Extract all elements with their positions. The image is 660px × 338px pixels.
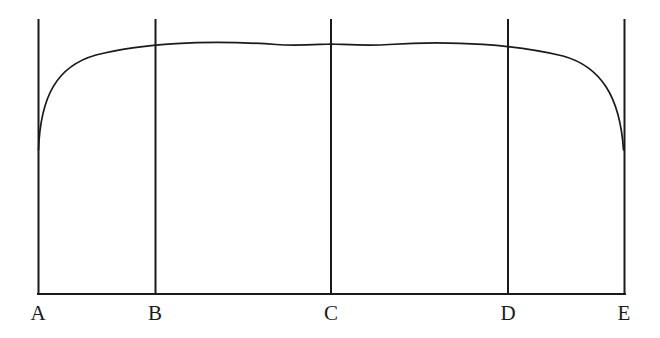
axis-tick-label-e: E <box>604 303 644 324</box>
axis-tick-label-d: D <box>488 303 528 324</box>
axis-tick-label-a: A <box>18 303 58 324</box>
axis-tick-label-c: C <box>311 303 351 324</box>
arch-diagram-figure: A B C D E <box>0 0 660 338</box>
diagram-canvas <box>0 0 660 338</box>
axis-tick-label-b: B <box>135 303 175 324</box>
